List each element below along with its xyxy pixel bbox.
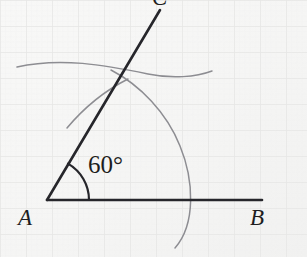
angle-arc-60 bbox=[68, 164, 89, 200]
construction-arcs bbox=[17, 62, 212, 248]
short-left-arc-tail bbox=[67, 79, 128, 128]
large-arc-centered-at-A bbox=[111, 70, 191, 248]
pencil-strokes bbox=[0, 0, 307, 257]
geometry-diagram: A B C 60° bbox=[0, 0, 307, 257]
ray-AC bbox=[47, 10, 160, 200]
upper-crossing-arc bbox=[17, 62, 212, 76]
